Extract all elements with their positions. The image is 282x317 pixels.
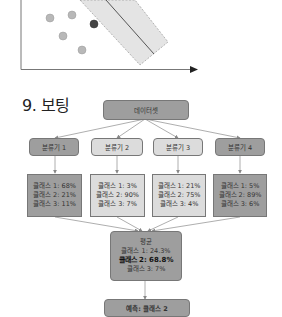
average-line: 클래스 3: 7% [127, 265, 166, 274]
classifier-3-node: 분류기 3 [153, 138, 203, 156]
dataset-node: 데이터셋 [103, 100, 189, 120]
average-title: 평균 [140, 238, 152, 247]
classifier-4-results: 클래스 1: 5% 클래스 2: 89% 클래스 3: 6% [213, 174, 267, 217]
result-line: 클래스 2: 75% [158, 191, 201, 200]
classifier-label: 분류기 1 [42, 142, 66, 152]
classifier-4-node: 분류기 4 [215, 138, 265, 156]
classifier-3-results: 클래스 1: 21% 클래스 2: 75% 클래스 3: 4% [152, 174, 206, 217]
result-line: 클래스 1: 21% [158, 182, 201, 191]
classifier-2-results: 클래스 1: 3% 클래스 2: 90% 클래스 3: 7% [90, 174, 145, 217]
result-line: 클래스 1: 3% [98, 182, 137, 191]
average-node: 평균 클래스 1: 24.3% 클래스 2: 68.8% 클래스 3: 7% [110, 231, 182, 281]
prediction-node: 예측: 클래스 2 [104, 299, 190, 317]
classifier-1-node: 분류기 1 [29, 138, 79, 156]
result-line: 클래스 1: 5% [221, 182, 260, 191]
classifier-1-results: 클래스 1: 68% 클래스 2: 21% 클래스 3: 11% [27, 174, 82, 217]
result-line: 클래스 3: 11% [33, 200, 76, 209]
average-line: 클래스 1: 24.3% [121, 247, 170, 256]
prediction-label: 예측: 클래스 2 [126, 303, 168, 313]
result-line: 클래스 1: 68% [33, 182, 76, 191]
result-line: 클래스 3: 6% [221, 200, 260, 209]
result-line: 클래스 3: 4% [160, 200, 199, 209]
result-line: 클래스 2: 90% [96, 191, 139, 200]
average-line-highlight: 클래스 2: 68.8% [119, 256, 174, 265]
result-line: 클래스 2: 89% [219, 191, 262, 200]
classifier-label: 분류기 2 [105, 142, 129, 152]
result-line: 클래스 2: 21% [33, 191, 76, 200]
dataset-label: 데이터셋 [134, 105, 158, 115]
classifier-label: 분류기 4 [228, 142, 252, 152]
classifier-label: 분류기 3 [166, 142, 190, 152]
result-line: 클래스 3: 7% [98, 200, 137, 209]
classifier-2-node: 분류기 2 [91, 138, 143, 156]
